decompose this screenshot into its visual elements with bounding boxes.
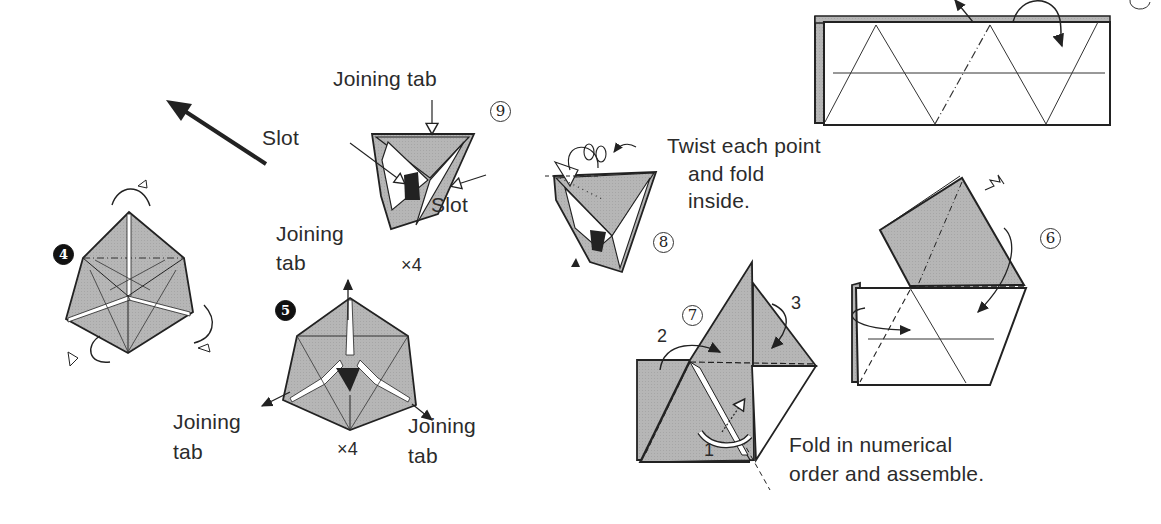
step7-fold-number-3: 3 (791, 291, 801, 315)
origami-diagram: 4 5 6 7 8 9 Joining tab Slot Slot ×4 Twi… (0, 0, 1161, 524)
step-4-drawing (66, 180, 212, 366)
step7-fold-number-2: 2 (657, 324, 667, 348)
step-number-8: 8 (653, 232, 674, 253)
direction-arrow (166, 100, 266, 164)
step7-instruction-line2: order and assemble. (789, 462, 984, 486)
step9-slot-right-label: Slot (431, 193, 468, 217)
step5-joining-tab-left-line1: Joining (173, 410, 241, 434)
step5-joining-tab-right-line1: Joining (408, 414, 476, 438)
step7-instruction-line1: Fold in numerical (789, 433, 952, 457)
step5-joining-tab-left-line2: tab (173, 440, 203, 464)
step9-multiplier: ×4 (401, 253, 422, 277)
step8-instruction-line3: inside. (688, 189, 750, 213)
step-number-5: 5 (275, 300, 296, 321)
step-8-drawing (545, 144, 656, 272)
step5-joining-tab-right-line2: tab (408, 444, 438, 468)
step5-joining-tab-top-line1: Joining (276, 222, 344, 246)
step5-joining-tab-top-line2: tab (276, 251, 306, 275)
step-6-drawing (852, 175, 1026, 385)
step-number-6: 6 (1040, 228, 1061, 249)
strip-diagram-top (815, 0, 1150, 125)
step9-joining-tab-label: Joining tab (333, 67, 437, 91)
step-number-9: 9 (490, 101, 511, 122)
step-number-7: 7 (682, 305, 703, 326)
step7-fold-number-1: 1 (704, 438, 714, 462)
step5-multiplier: ×4 (337, 437, 358, 461)
step-number-4: 4 (53, 244, 74, 265)
step9-slot-left-label: Slot (262, 126, 299, 150)
step8-instruction-line1: Twist each point (667, 134, 821, 158)
step8-instruction-line2: and fold (688, 162, 764, 186)
